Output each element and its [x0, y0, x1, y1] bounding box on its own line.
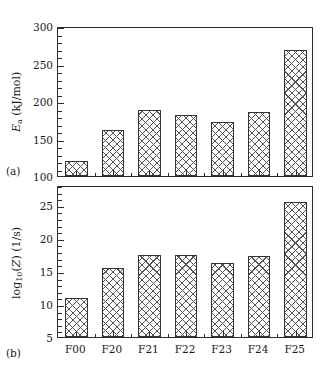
- y-tick: [58, 28, 64, 29]
- x-tick: [149, 170, 150, 176]
- panel-letter-b: (b): [6, 347, 21, 359]
- y-tick: [58, 266, 62, 267]
- y-tick: [58, 148, 62, 149]
- x-tick-labels: F00F20F21F22F23F24F25: [57, 344, 313, 358]
- x-tick-minor: [241, 173, 242, 177]
- y-tick: [58, 280, 62, 281]
- y-tick: [58, 227, 62, 228]
- y-tick: [58, 163, 62, 164]
- y-tick-label: 300: [33, 22, 53, 33]
- x-tick-label-f23: F23: [211, 344, 232, 355]
- plot-area-b: [57, 186, 313, 338]
- y-tick: [58, 293, 62, 294]
- y-tick: [58, 194, 62, 195]
- y-tick: [58, 326, 62, 327]
- bar-series-a: [58, 28, 312, 176]
- x-tick: [259, 331, 260, 337]
- x-tick-minor: [168, 173, 169, 177]
- x-tick-minor: [168, 334, 169, 338]
- x-tick: [186, 331, 187, 337]
- bar-f25: [284, 202, 307, 337]
- y-tick: [58, 213, 62, 214]
- bar-f24: [248, 256, 271, 337]
- x-tick-minor: [204, 173, 205, 177]
- y-tick: [58, 306, 64, 307]
- y-tick: [58, 253, 62, 254]
- y-tick-label: 15: [40, 267, 53, 278]
- x-tick-minor: [204, 334, 205, 338]
- y-tick-label: 25: [40, 201, 53, 212]
- x-tick: [259, 170, 260, 176]
- bar-f22: [175, 115, 198, 177]
- x-tick: [223, 331, 224, 337]
- x-tick: [76, 170, 77, 176]
- y-tick: [58, 171, 62, 172]
- y-axis-title-b: log10(Z) (1/s): [10, 203, 24, 323]
- x-tick-label-f00: F00: [65, 344, 86, 355]
- y-tick: [58, 118, 62, 119]
- x-tick-minor: [277, 173, 278, 177]
- panel-letter-a: (a): [6, 165, 20, 177]
- x-tick-label-f24: F24: [248, 344, 269, 355]
- y-tick: [58, 233, 62, 234]
- y-tick: [58, 81, 62, 82]
- y-tick: [58, 96, 62, 97]
- y-tick: [58, 58, 62, 59]
- y-tick-label: 5: [46, 333, 53, 344]
- x-tick-minor: [241, 334, 242, 338]
- y-tick: [58, 187, 62, 188]
- x-tick-minor: [95, 173, 96, 177]
- x-tick: [76, 331, 77, 337]
- y-tick: [58, 43, 62, 44]
- y-tick: [58, 260, 62, 261]
- bar-f21: [138, 110, 161, 176]
- bar-f24: [248, 112, 271, 177]
- y-axis-title-a: Ea (kJ/mol): [10, 42, 24, 162]
- y-tick: [58, 126, 62, 127]
- bar-f22: [175, 255, 198, 337]
- y-tick: [58, 200, 62, 201]
- plot-area-a: [57, 27, 313, 177]
- x-tick-minor: [95, 334, 96, 338]
- x-tick: [113, 331, 114, 337]
- x-tick: [223, 170, 224, 176]
- x-tick-label-f22: F22: [175, 344, 196, 355]
- bar-f25: [284, 50, 307, 176]
- y-tick-label: 250: [33, 59, 53, 70]
- y-tick: [58, 286, 62, 287]
- y-tick: [58, 88, 62, 89]
- bar-f23: [211, 263, 234, 337]
- y-tick: [58, 313, 62, 314]
- bar-series-b: [58, 187, 312, 337]
- y-tick: [58, 36, 62, 37]
- y-tick: [58, 133, 62, 134]
- bar-f20: [102, 268, 125, 337]
- x-tick: [186, 170, 187, 176]
- y-tick: [58, 66, 64, 67]
- bar-f21: [138, 255, 161, 337]
- y-tick: [58, 220, 62, 221]
- y-tick: [58, 141, 64, 142]
- y-tick-label: 100: [33, 172, 53, 183]
- x-tick: [296, 170, 297, 176]
- y-tick: [58, 246, 62, 247]
- y-tick: [58, 207, 64, 208]
- y-tick-label: 20: [40, 234, 53, 245]
- y-tick-label: 150: [33, 134, 53, 145]
- y-tick: [58, 73, 62, 74]
- y-tick: [58, 332, 62, 333]
- y-tick: [58, 156, 62, 157]
- x-tick: [149, 331, 150, 337]
- x-tick-label-f21: F21: [138, 344, 159, 355]
- y-tick: [58, 111, 62, 112]
- x-tick-minor: [131, 334, 132, 338]
- x-tick: [296, 331, 297, 337]
- y-tick: [58, 103, 64, 104]
- y-tick: [58, 319, 62, 320]
- bar-f23: [211, 122, 234, 176]
- y-tick: [58, 240, 64, 241]
- x-tick: [113, 170, 114, 176]
- x-tick-minor: [277, 334, 278, 338]
- y-tick: [58, 299, 62, 300]
- x-tick-label-f20: F20: [102, 344, 123, 355]
